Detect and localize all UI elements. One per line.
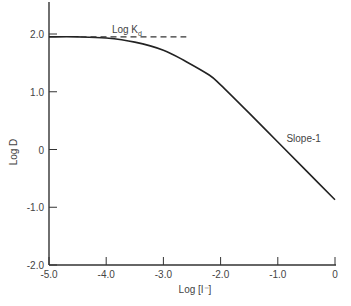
x-tick-label: -1.0 [269, 269, 287, 280]
x-tick-label: -5.0 [40, 269, 58, 280]
x-axis-label: Log [I⁻] [179, 284, 212, 295]
x-tick-label: -4.0 [98, 269, 116, 280]
slope-label: Slope-1 [286, 133, 321, 144]
y-axis-label: Log D [8, 139, 19, 166]
chart: 2.01.00-1.0-2.0 -5.0-4.0-3.0-2.0-1.00 Lo… [0, 0, 351, 306]
log-kd-label: Log Kd [112, 24, 142, 37]
log-d-curve [49, 37, 335, 200]
x-tick-label: -2.0 [212, 269, 230, 280]
y-ticks: 2.01.00-1.0-2.0 [27, 29, 57, 271]
y-tick-label: -1.0 [27, 202, 45, 213]
x-tick-label: -3.0 [155, 269, 173, 280]
x-tick-label: 0 [332, 269, 338, 280]
y-tick-label: 0 [38, 145, 44, 156]
y-tick-label: 2.0 [30, 29, 44, 40]
x-ticks: -5.0-4.0-3.0-2.0-1.00 [40, 257, 338, 280]
y-tick-label: 1.0 [30, 87, 44, 98]
